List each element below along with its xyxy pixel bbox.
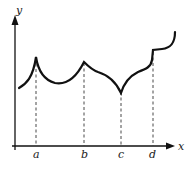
function-curve [19,32,175,93]
tick-label-b: b [81,148,88,161]
tick-label-a: a [33,148,40,161]
guide-lines [36,52,153,146]
function-graph: y x a b c d [0,0,191,169]
tick-label-c: c [118,148,124,161]
y-axis-label: y [15,4,23,17]
x-axis-arrow-icon [166,143,175,150]
tick-label-d: d [149,148,156,161]
x-axis-label: x [178,140,185,153]
